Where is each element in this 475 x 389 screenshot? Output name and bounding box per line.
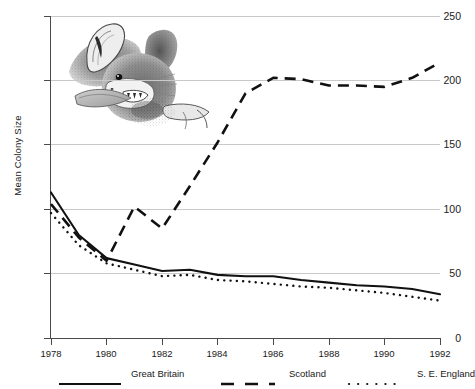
legend-label-scotland: Scotland [289,366,326,381]
series-line-se-england [51,213,440,301]
legend-swatch-dashed [217,372,279,376]
series-line-scotland [51,62,440,260]
legend-swatch-dotted [345,372,407,376]
legend-swatch-solid [59,372,121,376]
series-line-great-britain [51,192,440,294]
legend-label-great-britain: Great Britain [131,366,184,381]
legend-label-se-england: S. E. England [417,366,475,381]
chart-legend: Great Britain Scotland S. E. England [51,366,451,386]
